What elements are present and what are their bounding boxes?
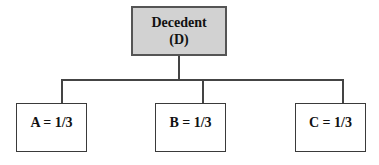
child-c-connector <box>342 79 344 103</box>
heir-a-label: A = 1/3 <box>30 115 72 130</box>
decedent-node: Decedent (D) <box>131 6 227 56</box>
child-a-connector <box>61 79 63 103</box>
heir-b-label: B = 1/3 <box>169 115 211 130</box>
root-stem-connector <box>178 56 180 80</box>
heir-b-node: B = 1/3 <box>155 103 226 152</box>
child-b-connector <box>202 79 204 103</box>
decedent-abbrev: (D) <box>133 31 225 48</box>
heir-c-label: C = 1/3 <box>309 115 352 130</box>
heir-c-node: C = 1/3 <box>295 103 366 152</box>
heir-a-node: A = 1/3 <box>16 103 87 152</box>
decedent-label: Decedent <box>133 14 225 31</box>
